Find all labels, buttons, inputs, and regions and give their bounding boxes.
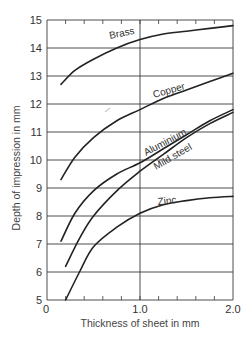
curve-zinc — [66, 196, 233, 300]
curve-label-brass: Brass — [108, 25, 135, 41]
data-curves — [61, 26, 233, 300]
y-tick-label: 10 — [30, 154, 42, 166]
y-tick-label: 8 — [36, 210, 42, 222]
y-tick-label: 7 — [36, 238, 42, 250]
curve-aluminium — [61, 110, 233, 242]
y-tick-label: 11 — [31, 126, 42, 138]
grid-lines — [47, 20, 233, 300]
y-tick-label: 6 — [36, 266, 42, 278]
curve-label-zinc: Zinc — [157, 194, 177, 207]
curve-mild-steel — [66, 112, 233, 266]
y-tick-label: 15 — [30, 14, 42, 26]
y-axis-title: Depth of impression in mm — [10, 105, 22, 230]
chart: 5678910111213141501.02.0 Thickness of sh… — [0, 0, 252, 345]
y-tick-label: 14 — [30, 42, 42, 54]
x-tick-label: 1.0 — [132, 303, 147, 315]
x-tick-label: 2.0 — [225, 303, 240, 315]
y-tick-label: 12 — [30, 98, 42, 110]
x-axis-title: Thickness of sheet in mm — [80, 317, 199, 329]
y-tick-label: 5 — [36, 294, 42, 306]
y-tick-label: 13 — [30, 70, 42, 82]
x-tick-label: 0 — [43, 303, 49, 315]
y-tick-label: 9 — [36, 182, 42, 194]
scan-artifact-mark — [105, 108, 110, 112]
curve-copper — [61, 73, 233, 179]
